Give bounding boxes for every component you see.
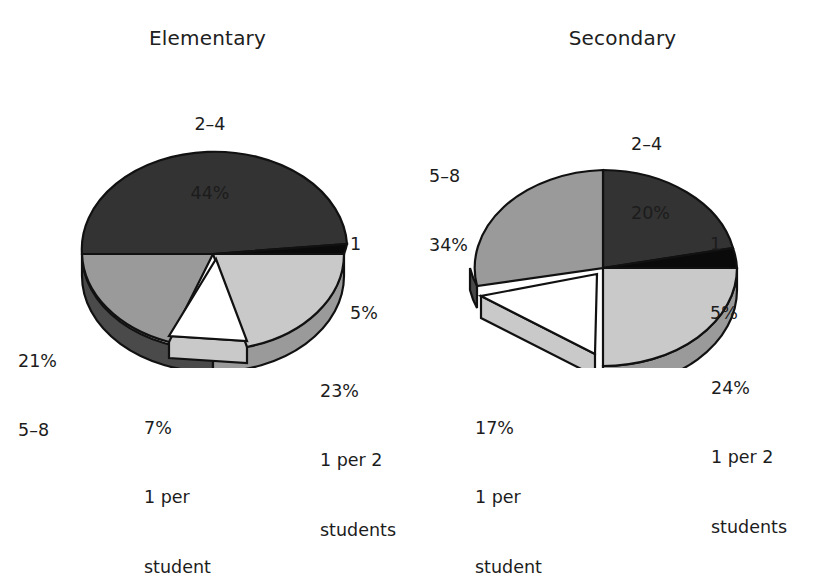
pie-top-face-secondary <box>475 170 737 366</box>
label-elementary-5-8-pct: 21% <box>18 350 57 373</box>
label-secondary-1-name: 1 <box>710 233 743 256</box>
label-secondary-1-pct: 5% <box>710 302 743 325</box>
label-secondary-5-8: 5–8 34% <box>429 118 468 304</box>
chart-panel-elementary: Elementary <box>0 0 415 482</box>
label-secondary-1-per-student-pct: 17% <box>475 417 542 440</box>
label-secondary-1-per-2-pct: 24% <box>711 377 787 400</box>
pie-slice-secondary-5-8 <box>475 170 603 286</box>
label-elementary-1-pct: 5% <box>350 302 383 325</box>
label-secondary-5-8-name: 5–8 <box>429 165 468 188</box>
label-elementary-1-per-student-pct: 7% <box>144 417 211 440</box>
label-elementary-1-per-student-l2: student <box>144 556 211 577</box>
label-secondary-1-per-2-students: 24% 1 per 2 students <box>711 330 787 577</box>
label-elementary-2-4-pct: 44% <box>100 182 320 205</box>
label-secondary-2-4-name: 2–4 <box>631 133 670 156</box>
chart-title-elementary: Elementary <box>0 26 415 50</box>
label-secondary-1-per-2-l2: students <box>711 516 787 539</box>
label-secondary-5-8-pct: 34% <box>429 234 468 257</box>
label-elementary-2-4: 2–4 44% <box>100 66 320 252</box>
chart-panel-secondary: Secondary <box>415 0 830 482</box>
pie-chart-secondary <box>445 118 755 368</box>
label-elementary-1-per-2-students: 23% 1 per 2 students <box>320 333 396 577</box>
label-elementary-1-per-student-l1: 1 per <box>144 486 211 509</box>
label-secondary-2-4-pct: 20% <box>631 202 670 225</box>
label-elementary-1-per-2-l1: 1 per 2 <box>320 449 396 472</box>
label-elementary-1-per-student: 7% 1 per student <box>144 370 211 577</box>
label-secondary-1-per-student-l1: 1 per <box>475 486 542 509</box>
label-secondary-1-per-student-l2: student <box>475 556 542 577</box>
label-elementary-1-per-2-pct: 23% <box>320 380 396 403</box>
label-secondary-1-per-2-l1: 1 per 2 <box>711 446 787 469</box>
label-elementary-5-8-name: 5–8 <box>18 419 57 442</box>
label-elementary-2-4-name: 2–4 <box>100 113 320 136</box>
label-secondary-1-per-student: 17% 1 per student <box>475 370 542 577</box>
label-elementary-1-name: 1 <box>350 233 383 256</box>
label-elementary-5-8: 21% 5–8 <box>18 303 57 489</box>
label-elementary-1-per-2-l2: students <box>320 519 396 542</box>
label-secondary-2-4: 2–4 20% <box>631 86 670 272</box>
chart-title-secondary: Secondary <box>415 26 830 50</box>
